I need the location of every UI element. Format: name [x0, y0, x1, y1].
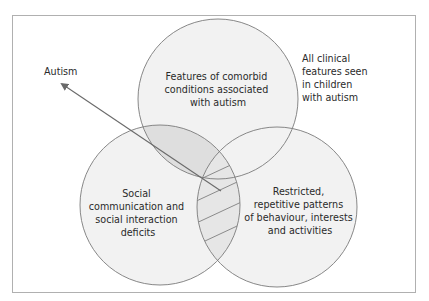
restricted-label-line: of behaviour, interests: [244, 212, 352, 223]
comorbid-label-line: Features of comorbid: [166, 71, 268, 82]
restricted-label-line: Restricted,: [273, 186, 325, 197]
outer-label-line: All clinical: [302, 53, 350, 64]
social-label-line: social interaction: [95, 214, 177, 225]
restricted-label-line: repetitive patterns: [254, 199, 343, 210]
venn-diagram: Autism All clinical features seen in chi…: [0, 0, 429, 301]
restricted-label-line: and activities: [268, 225, 332, 236]
social-label-line: deficits: [121, 227, 156, 238]
comorbid-label-line: with autism: [190, 97, 246, 108]
social-label-line: communication and: [89, 201, 184, 212]
social-label-line: Social: [122, 188, 150, 199]
outer-label-line: features seen: [302, 66, 368, 77]
outer-label-line: in children: [302, 79, 352, 90]
comorbid-label-line: conditions associated: [165, 84, 269, 95]
autism-label: Autism: [44, 66, 77, 77]
outer-label-line: with autism: [302, 92, 358, 103]
